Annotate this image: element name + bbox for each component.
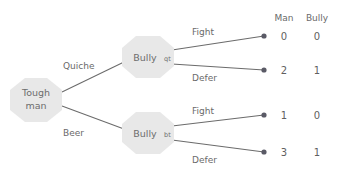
node-bully-qt-label: Bully: [133, 52, 157, 63]
edge-line-lower-fight: [172, 115, 264, 126]
edge-line-upper-defer: [172, 64, 264, 70]
node-tough-man-label-line2: man: [25, 100, 46, 111]
node-bully-bt-label: Bully: [133, 128, 157, 139]
game-tree-diagram: Tough man Bully qt Bully bt Quiche Beer …: [0, 0, 338, 177]
column-header-bully: Bully: [306, 13, 329, 23]
node-bully-bt-subscript: bt: [164, 131, 171, 139]
tree-canvas: Tough man Bully qt Bully bt Quiche Beer …: [0, 0, 338, 177]
payoff-man-quiche-fight: 0: [281, 31, 287, 42]
terminal-dot-quiche-defer: [261, 67, 266, 72]
payoff-bully-quiche-fight: 0: [314, 31, 320, 42]
edge-line-lower-defer: [172, 140, 264, 152]
payoff-bully-quiche-defer: 1: [314, 65, 320, 76]
edge-label-lower-fight: Fight: [192, 106, 214, 116]
payoff-bully-beer-fight: 0: [314, 110, 320, 121]
edge-line-root-to-lower: [62, 106, 124, 129]
column-header-man: Man: [275, 13, 294, 23]
node-tough-man-label-line1: Tough: [21, 87, 50, 98]
node-bully-qt-subscript: qt: [164, 55, 171, 63]
terminal-dot-beer-defer: [261, 149, 266, 154]
payoff-bully-beer-defer: 1: [314, 147, 320, 158]
edge-label-upper-defer: Defer: [192, 73, 217, 83]
edge-label-upper-fight: Fight: [192, 27, 214, 37]
edge-label-lower-defer: Defer: [192, 155, 217, 165]
edge-line-upper-fight: [172, 36, 264, 50]
terminal-dot-beer-fight: [261, 112, 266, 117]
payoff-man-beer-fight: 1: [281, 110, 287, 121]
terminal-dot-quiche-fight: [261, 33, 266, 38]
edge-label-beer: Beer: [63, 128, 84, 138]
edge-label-quiche: Quiche: [63, 61, 95, 71]
payoff-man-beer-defer: 3: [281, 147, 287, 158]
payoff-man-quiche-defer: 2: [281, 65, 287, 76]
